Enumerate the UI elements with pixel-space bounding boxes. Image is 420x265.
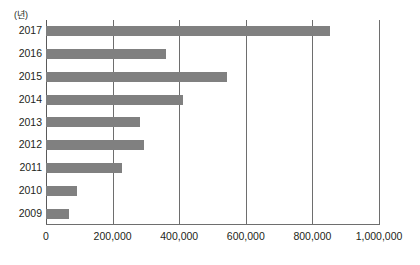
- bar-row[interactable]: [46, 88, 183, 111]
- y-axis-label-2010: 2010: [0, 185, 42, 196]
- bar-series: [46, 20, 379, 225]
- bar-row[interactable]: [46, 111, 140, 134]
- y-axis-label-2012: 2012: [0, 139, 42, 150]
- x-axis-tick-labels: 0200,000400,000600,000800,0001,000,000: [0, 230, 420, 250]
- bar-row[interactable]: [46, 66, 227, 89]
- bar-2009[interactable]: [46, 209, 69, 219]
- bar-row[interactable]: [46, 134, 144, 157]
- x-axis-label-600000: 600,000: [227, 230, 265, 242]
- bar-chart: (년) 201720162015201420132012201120102009…: [0, 0, 420, 265]
- x-axis-label-800000: 800,000: [293, 230, 331, 242]
- bar-2017[interactable]: [46, 26, 330, 36]
- bar-2012[interactable]: [46, 140, 144, 150]
- bar-2016[interactable]: [46, 49, 166, 59]
- y-axis-label-2014: 2014: [0, 94, 42, 105]
- x-axis-label-200000: 200,000: [94, 230, 132, 242]
- bar-row[interactable]: [46, 202, 69, 225]
- y-axis-category-labels: 201720162015201420132012201120102009: [0, 20, 42, 225]
- bar-row[interactable]: [46, 20, 330, 43]
- plot-area: [46, 20, 379, 225]
- y-axis-label-2013: 2013: [0, 117, 42, 128]
- y-axis-label-2017: 2017: [0, 25, 42, 36]
- bar-row[interactable]: [46, 179, 77, 202]
- bar-row[interactable]: [46, 157, 122, 180]
- bar-row[interactable]: [46, 43, 166, 66]
- y-axis-label-2016: 2016: [0, 48, 42, 59]
- y-axis-label-2009: 2009: [0, 208, 42, 219]
- x-axis-label-1000000: 1,000,000: [356, 230, 403, 242]
- y-axis-label-2015: 2015: [0, 71, 42, 82]
- y-axis-label-2011: 2011: [0, 162, 42, 173]
- x-axis-baseline: [46, 224, 380, 225]
- x-axis-label-400000: 400,000: [160, 230, 198, 242]
- bar-2014[interactable]: [46, 95, 183, 105]
- bar-2011[interactable]: [46, 163, 122, 173]
- bar-2013[interactable]: [46, 117, 140, 127]
- x-axis-label-0: 0: [43, 230, 49, 242]
- bar-2010[interactable]: [46, 186, 77, 196]
- bar-2015[interactable]: [46, 72, 227, 82]
- gridline-1000000: [379, 20, 380, 225]
